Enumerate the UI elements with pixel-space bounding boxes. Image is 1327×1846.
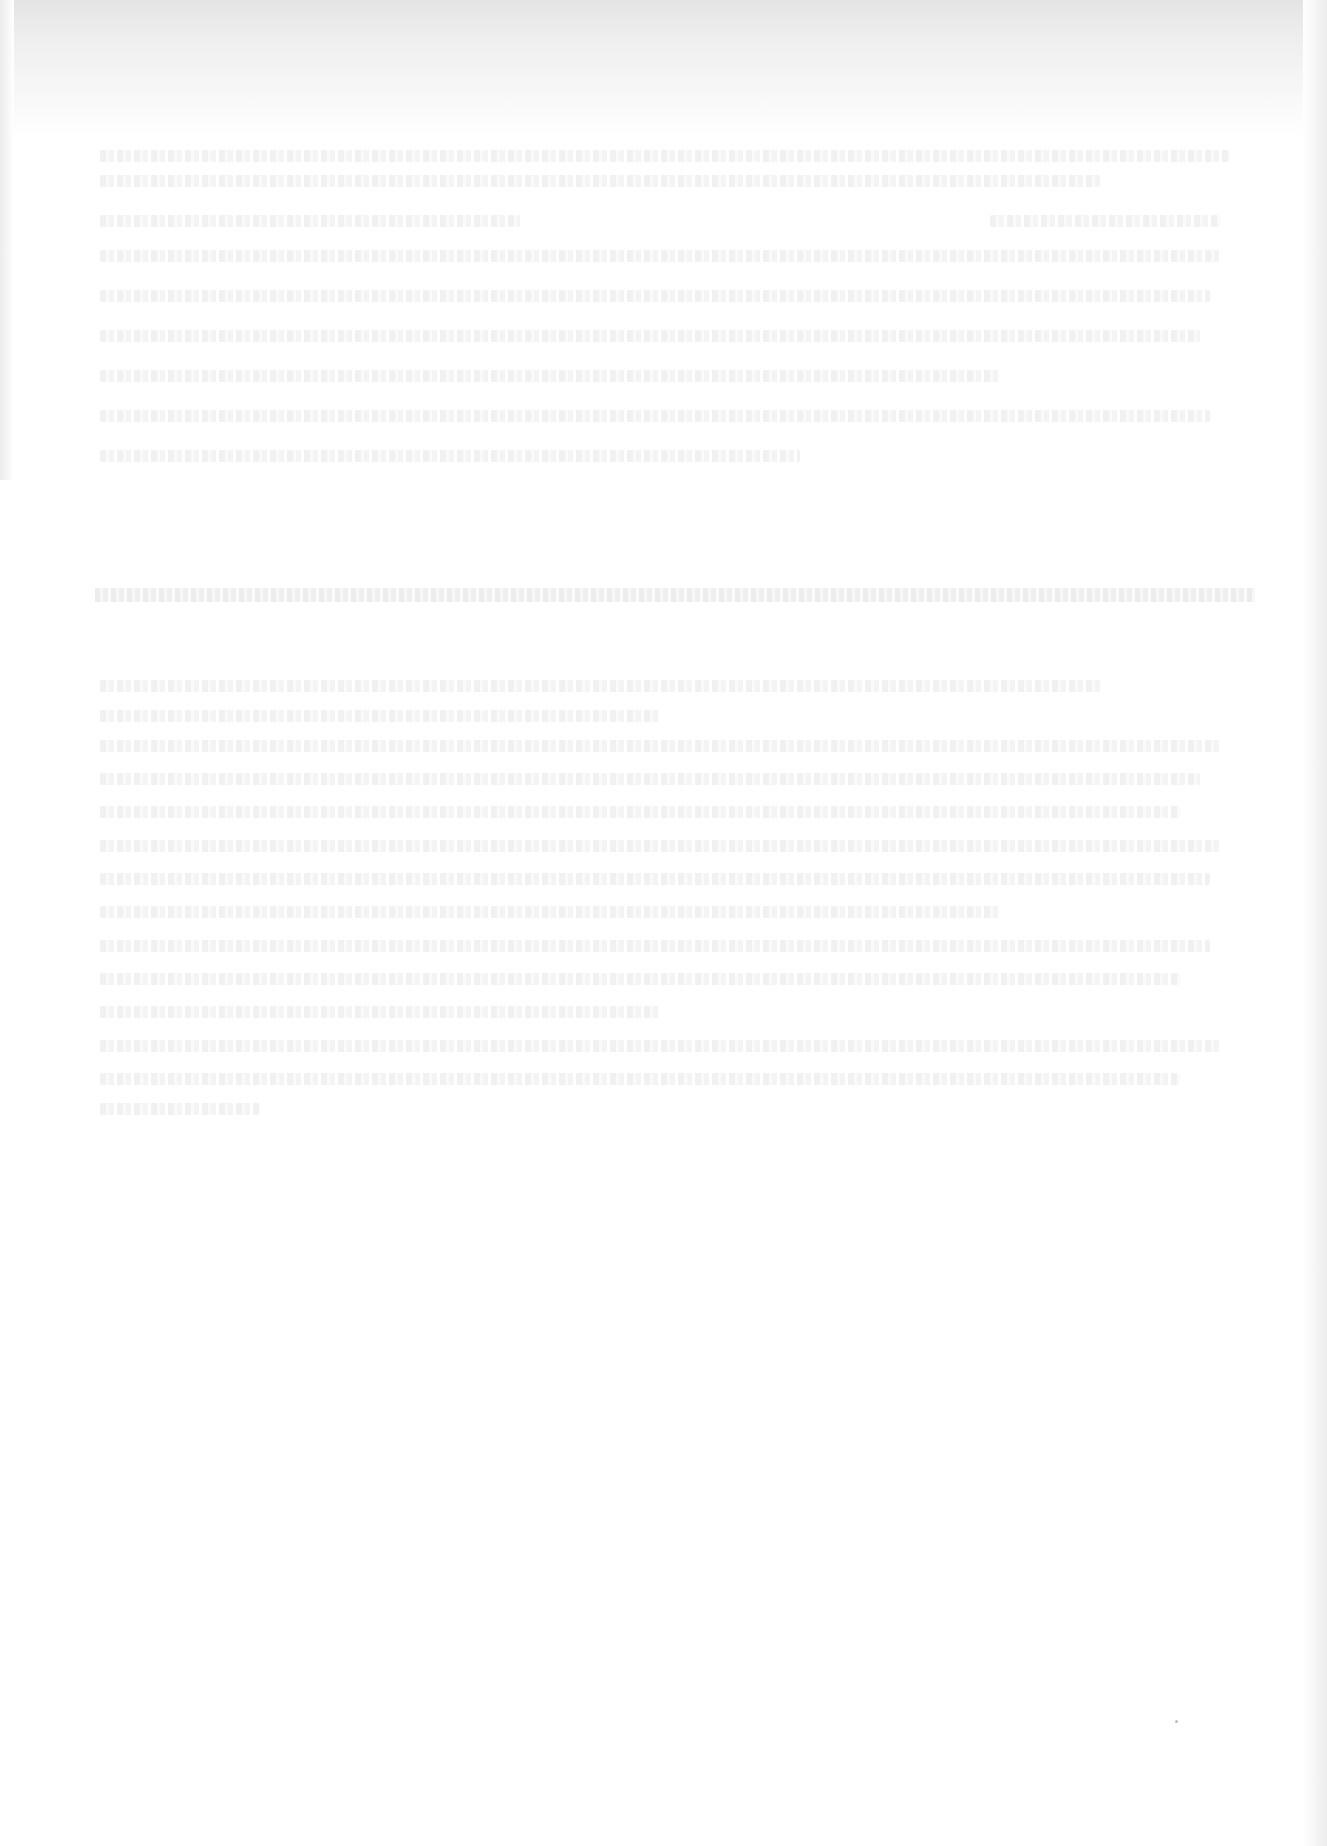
illegible-text-line [100,740,1220,752]
illegible-text-line [100,873,1210,885]
illegible-text-line [100,1040,1220,1052]
scan-speck [1175,1720,1178,1723]
illegible-text-line [100,250,1220,262]
illegible-text-line [100,773,1200,785]
scan-shading-top [0,0,1327,140]
illegible-text-line [100,1103,260,1115]
illegible-text-line [100,806,1180,818]
illegible-text-line [100,840,1220,852]
illegible-text-line [100,370,1000,382]
illegible-text-line [100,710,660,722]
illegible-text-line [100,410,1210,422]
illegible-text-line [100,906,1000,918]
illegible-text-line [100,150,1230,162]
illegible-text-line [100,1073,1180,1085]
illegible-text-line [100,175,1100,187]
illegible-text-line [100,1006,660,1018]
illegible-text-line [100,330,1200,342]
illegible-text-line [100,215,520,227]
illegible-text-line [100,973,1180,985]
scan-shading-right [1303,0,1327,1846]
illegible-text-line [100,940,1210,952]
illegible-text-line [100,680,1100,692]
illegible-text-line [100,450,800,462]
illegible-heading-band [95,588,1255,602]
illegible-text-line [990,215,1220,227]
illegible-text-line [100,290,1210,302]
scan-shading-left [0,0,14,480]
